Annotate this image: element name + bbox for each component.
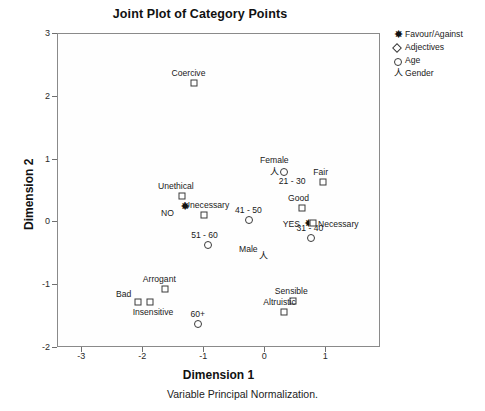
legend-marker bbox=[393, 55, 405, 66]
x-axis-tick-label: -1 bbox=[191, 351, 215, 361]
data-point-label: Bad bbox=[116, 289, 131, 299]
chart-legend: Favour/AgainstAdjectivesAgeGender bbox=[393, 29, 485, 81]
data-point-label: Sensible bbox=[275, 286, 308, 296]
y-axis-tick bbox=[52, 347, 57, 348]
y-axis-tick-label: 0 bbox=[34, 216, 50, 226]
data-point-label: 51 - 60 bbox=[191, 230, 218, 240]
data-point-label: 41 - 50 bbox=[235, 205, 262, 215]
person-icon bbox=[394, 69, 402, 78]
y-axis-tick-label: -1 bbox=[34, 279, 50, 289]
diamond-icon bbox=[146, 298, 153, 305]
y-axis-tick-label: 1 bbox=[34, 154, 50, 164]
x-axis-title: Dimension 1 bbox=[57, 368, 380, 382]
data-point-label: Coercive bbox=[172, 68, 206, 78]
legend-marker bbox=[393, 42, 405, 53]
chart-title: Joint Plot of Category Points bbox=[0, 7, 400, 21]
x-axis-tick-label: -3 bbox=[69, 351, 93, 361]
legend-label: Age bbox=[405, 55, 420, 66]
data-point-label: Female bbox=[260, 155, 289, 165]
data-point-label: 60+ bbox=[190, 309, 205, 319]
y-axis-tick bbox=[52, 159, 57, 160]
y-axis-tick bbox=[52, 33, 57, 34]
joint-plot-chart: Joint Plot of Category Points -3-2-101-2… bbox=[0, 0, 485, 411]
circle-icon bbox=[204, 241, 212, 249]
diamond-icon bbox=[161, 285, 168, 292]
chart-footnote: Variable Principal Normalization. bbox=[0, 388, 485, 400]
data-point-label: Male bbox=[239, 244, 258, 254]
circle-icon bbox=[394, 58, 402, 66]
data-point-label: 31 - 40 bbox=[297, 223, 324, 233]
y-axis-tick bbox=[52, 96, 57, 97]
plot-area bbox=[57, 33, 380, 347]
legend-marker bbox=[393, 29, 405, 40]
x-axis-tick-label: -2 bbox=[130, 351, 154, 361]
diamond-icon bbox=[320, 179, 327, 186]
legend-label: Favour/Against bbox=[405, 29, 463, 40]
x-axis-tick-label: 1 bbox=[313, 351, 337, 361]
circle-icon bbox=[280, 168, 288, 176]
x-axis-tick-label: 0 bbox=[252, 351, 276, 361]
legend-item: Favour/Against bbox=[393, 29, 485, 41]
data-point-label: Unecessary bbox=[184, 200, 229, 210]
diamond-icon bbox=[190, 80, 197, 87]
data-point-label: NO bbox=[161, 208, 174, 218]
data-point-label: Arrogant bbox=[143, 274, 176, 284]
circle-icon bbox=[307, 234, 315, 242]
legend-item: Adjectives bbox=[393, 42, 485, 54]
data-point-label: Unethical bbox=[158, 181, 194, 191]
diamond-icon bbox=[298, 204, 305, 211]
y-axis-tick bbox=[52, 221, 57, 222]
data-point-label: Altruistic bbox=[263, 297, 295, 307]
data-point-label: Fair bbox=[313, 167, 328, 177]
diamond-icon bbox=[178, 192, 185, 199]
y-axis-tick-label: -2 bbox=[34, 342, 50, 352]
legend-label: Gender bbox=[405, 68, 434, 79]
legend-marker bbox=[393, 68, 405, 79]
legend-item: Gender bbox=[393, 68, 485, 80]
diamond-icon bbox=[200, 212, 207, 219]
data-point-label: 21 - 30 bbox=[279, 176, 306, 186]
circle-icon bbox=[194, 320, 202, 328]
data-point-label: Good bbox=[288, 193, 309, 203]
y-axis-tick bbox=[52, 284, 57, 285]
circle-icon bbox=[245, 216, 253, 224]
diamond-icon bbox=[135, 298, 142, 305]
data-point-label: Insensitive bbox=[133, 307, 174, 317]
y-axis-tick-label: 2 bbox=[34, 91, 50, 101]
diamond-icon bbox=[281, 308, 288, 315]
person-icon bbox=[259, 251, 267, 260]
legend-item: Age bbox=[393, 55, 485, 67]
y-axis-tick-label: 3 bbox=[34, 28, 50, 38]
diamond-icon bbox=[392, 43, 402, 53]
legend-label: Adjectives bbox=[405, 42, 444, 53]
data-point-label: Necessary bbox=[318, 219, 359, 229]
person-icon bbox=[270, 167, 278, 176]
y-axis-title: Dimension 2 bbox=[22, 159, 36, 230]
star-icon bbox=[394, 30, 403, 39]
